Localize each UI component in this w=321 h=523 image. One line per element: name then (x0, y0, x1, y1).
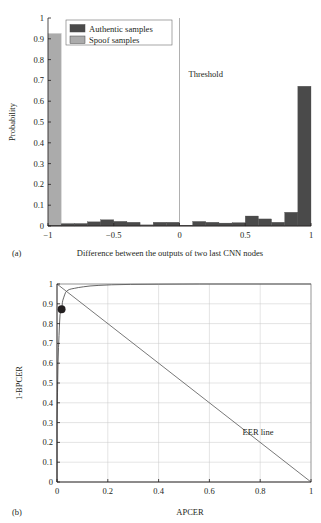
x-axis-title: Difference between the outputs of two la… (77, 248, 263, 258)
y-tick-label: 0.1 (42, 457, 53, 467)
x-tick-label: 0 (55, 486, 59, 496)
histogram-svg: Threshold00.10.20.30.40.50.60.70.80.91−1… (0, 0, 321, 262)
x-tick-label: 0.4 (153, 486, 164, 496)
x-tick-label: 0.6 (204, 486, 215, 496)
y-tick-label: 0.6 (42, 358, 53, 368)
bar (298, 86, 311, 226)
eer-operating-point-marker (58, 305, 66, 313)
x-tick-label: −1 (43, 230, 52, 240)
legend-label: Spoof samples (89, 35, 140, 45)
y-tick-label: 1 (40, 13, 44, 23)
bar (127, 222, 140, 226)
bar (272, 222, 285, 226)
legend-swatch (70, 36, 85, 44)
x-tick-label: 0.5 (240, 230, 251, 240)
bar (87, 222, 100, 226)
bar (153, 222, 166, 226)
roc-svg: 00.10.20.30.40.50.60.70.80.9100.20.40.60… (0, 262, 321, 523)
x-tick-label: −0.5 (106, 230, 121, 240)
figure-a-caption: (a) (12, 248, 22, 258)
y-tick-label: 0.3 (33, 159, 44, 169)
figure-a-histogram: Threshold00.10.20.30.40.50.60.70.80.91−1… (0, 0, 321, 262)
y-tick-label: 0.8 (42, 319, 53, 329)
y-tick-label: 0.1 (33, 200, 44, 210)
x-axis-title: APCER (176, 507, 204, 517)
bar (48, 34, 61, 226)
y-tick-label: 0.3 (42, 418, 53, 428)
bar (219, 223, 232, 226)
y-tick-label: 0.5 (33, 117, 44, 127)
bar (232, 223, 245, 226)
y-tick-label: 0.2 (42, 437, 53, 447)
legend: Authentic samplesSpoof samples (66, 20, 172, 45)
y-tick-label: 0.8 (33, 55, 44, 65)
x-tick-label: 1 (309, 230, 313, 240)
bar (114, 221, 127, 226)
bar (193, 221, 206, 226)
legend-label: Authentic samples (89, 24, 153, 34)
bar (258, 219, 271, 226)
x-tick-label: 1 (309, 486, 313, 496)
y-tick-label: 0.5 (42, 378, 53, 388)
y-tick-label: 0.7 (42, 338, 53, 348)
threshold-label: Threshold (189, 69, 224, 79)
y-axis-title: 1-BPCER (14, 366, 24, 400)
legend-swatch (70, 25, 85, 33)
bar (285, 212, 298, 226)
y-tick-label: 0.6 (33, 96, 44, 106)
bar (245, 216, 258, 226)
y-tick-label: 0.7 (33, 75, 44, 85)
bar (166, 222, 179, 226)
x-tick-label: 0 (177, 230, 181, 240)
y-tick-label: 0.9 (33, 34, 44, 44)
figure-b-roc: 00.10.20.30.40.50.60.70.80.9100.20.40.60… (0, 262, 321, 523)
figure-b-caption: (b) (12, 507, 22, 517)
y-tick-label: 0.4 (33, 138, 44, 148)
x-tick-label: 0.8 (255, 486, 266, 496)
x-tick-label: 0.2 (102, 486, 113, 496)
eer-line-label: EER line (243, 427, 274, 437)
y-tick-label: 0.4 (42, 398, 53, 408)
y-axis-title: Probability (7, 102, 17, 141)
y-tick-label: 0.9 (42, 299, 53, 309)
bar (101, 220, 114, 226)
y-tick-label: 1 (49, 279, 53, 289)
bar (206, 222, 219, 226)
y-tick-label: 0.2 (33, 179, 44, 189)
y-tick-label: 0 (49, 477, 53, 487)
